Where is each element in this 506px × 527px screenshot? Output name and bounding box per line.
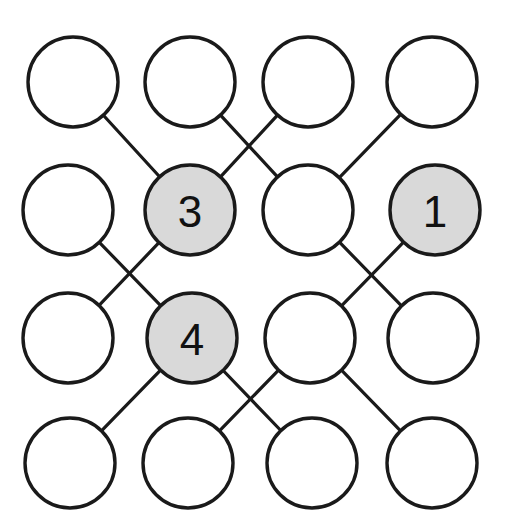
node-r2c2-labeled-3[interactable]: 3 [145, 165, 235, 255]
diagram-canvas: 314 [0, 0, 506, 527]
node-circle-r1c2[interactable] [145, 37, 235, 127]
edge-r3c3-r4c4 [341, 369, 402, 431]
node-r3c4[interactable] [388, 293, 478, 383]
node-circle-r2c3[interactable] [263, 165, 353, 255]
edge-r3c2-r4c3 [222, 370, 281, 432]
node-circle-r1c3[interactable] [263, 37, 353, 127]
edge-r1c4-r2c3 [339, 114, 402, 179]
node-circle-r4c3[interactable] [267, 418, 357, 508]
node-r1c2[interactable] [145, 37, 235, 127]
node-circle-r2c1[interactable] [23, 165, 113, 255]
node-r1c1[interactable] [28, 37, 118, 127]
node-circle-r4c4[interactable] [387, 418, 477, 508]
node-r4c4[interactable] [387, 418, 477, 508]
node-circle-r4c2[interactable] [143, 418, 233, 508]
node-r4c2[interactable] [143, 418, 233, 508]
node-circle-r4c1[interactable] [25, 418, 115, 508]
nodes-layer: 314 [23, 37, 480, 508]
node-circle-r1c4[interactable] [387, 37, 477, 127]
node-r2c1[interactable] [23, 165, 113, 255]
node-r2c4-labeled-1[interactable]: 1 [390, 165, 480, 255]
node-label-r2c4: 1 [423, 187, 447, 236]
node-circle-r3c4[interactable] [388, 293, 478, 383]
node-r1c4[interactable] [387, 37, 477, 127]
node-r4c1[interactable] [25, 418, 115, 508]
node-r2c3[interactable] [263, 165, 353, 255]
node-circle-r1c1[interactable] [28, 37, 118, 127]
node-r3c1[interactable] [23, 293, 113, 383]
edge-r3c2-r4c1 [101, 369, 162, 431]
edge-r3c3-r4c2 [219, 369, 280, 431]
node-label-r3c2: 4 [180, 315, 204, 364]
node-r4c3[interactable] [267, 418, 357, 508]
node-label-r2c2: 3 [178, 187, 202, 236]
node-r3c3[interactable] [265, 293, 355, 383]
edge-r1c1-r2c2 [103, 114, 161, 177]
node-r1c3[interactable] [263, 37, 353, 127]
node-r3c2-labeled-4[interactable]: 4 [147, 293, 237, 383]
node-circle-r3c3[interactable] [265, 293, 355, 383]
node-link-graph: 314 [0, 0, 506, 527]
edges-layer [98, 114, 404, 432]
node-circle-r3c1[interactable] [23, 293, 113, 383]
